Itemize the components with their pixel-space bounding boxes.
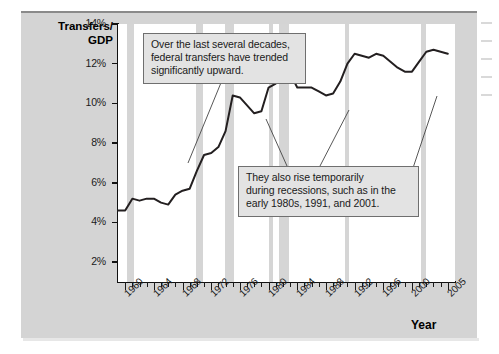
y-tick-label: 6% [62,176,106,188]
y-tick-label: 2% [62,255,106,267]
page-edge-mark [481,58,492,60]
y-tick-label: 12% [62,57,106,69]
callout-recession-line1: They also rise temporarily [246,171,364,183]
x-tick-mark-minor [290,282,291,287]
y-tick-label: 4% [62,215,106,227]
y-tick-label: 10% [62,96,106,108]
x-tick-mark-minor [261,282,262,287]
page-edge-mark [481,40,492,42]
y-axis-title-line2: GDP [88,34,113,46]
page-edge-marks [481,22,495,100]
x-tick-mark-minor [147,282,148,287]
callout-recession-line3: early 1980s, 1991, and 2001. [246,197,379,209]
y-tick-label: 14% [62,17,106,29]
x-tick-mark-minor [433,282,434,287]
x-tick-mark-minor [376,282,377,287]
x-tick-mark-minor [405,282,406,287]
page-edge-mark [481,22,492,24]
x-tick-mark-minor [441,282,442,287]
callout-trend-line2: federal transfers have trended [151,51,288,63]
callout-recession: They also rise temporarily during recess… [238,166,419,217]
y-tick-label: 8% [62,136,106,148]
page-edge-mark [481,76,492,78]
callout-recession-line2: during recessions, such as in the [246,184,396,196]
callout-trend-line3: significantly upward. [151,64,243,76]
x-tick-mark-minor [347,282,348,287]
x-tick-mark-minor [204,282,205,287]
x-tick-mark-minor [319,282,320,287]
x-tick-mark-minor [233,282,234,287]
x-tick-mark-minor [175,282,176,287]
callout-trend-line1: Over the last several decades, [151,38,290,50]
x-axis-title: Year [411,318,436,332]
panel-shadow [23,338,479,341]
page-edge-mark [481,94,492,96]
figure-container: Transfers/ GDP 14%12%10%8%6%4%2% 1960196… [0,0,499,354]
callout-trend: Over the last several decades, federal t… [143,33,306,84]
